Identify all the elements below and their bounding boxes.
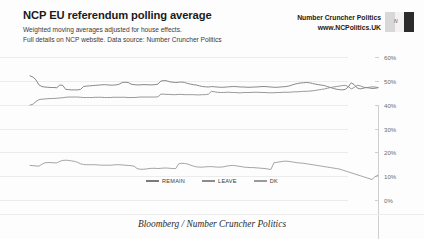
chart-area: 0%10%20%30%40%50%60% Sep 15Oct 15Nov 15D… (0, 48, 424, 213)
legend-label: REMAIN (162, 178, 185, 184)
chart-header: NCP EU referendum polling average Weight… (0, 0, 424, 48)
brand-block: Number Cruncher Politics www.NCPolitics.… (297, 13, 381, 33)
legend-item-leave[interactable]: LEAVE (202, 178, 237, 184)
subtitle-line-2: Full details on NCP website. Data source… (23, 36, 222, 43)
series-lines (0, 48, 424, 213)
legend-swatch-icon (202, 180, 215, 181)
series-line-dk (30, 160, 378, 179)
subtitle-line-1: Weighted moving averages adjusted for ho… (23, 26, 182, 33)
footer-divider (0, 214, 424, 215)
series-line-remain (30, 76, 378, 90)
legend-swatch-icon (254, 180, 267, 181)
brand-url: www.NCPolitics.UK (297, 23, 381, 33)
chart-legend: REMAINLEAVEDK (0, 178, 424, 184)
legend-label: DK (270, 178, 278, 184)
legend-swatch-icon (146, 180, 159, 181)
page-title: NCP EU referendum polling average (23, 9, 212, 21)
footer-credit: Bloomberg / Number Cruncher Politics (0, 219, 424, 229)
logo-letter: N (394, 18, 398, 24)
brand-name: Number Cruncher Politics (297, 13, 381, 23)
chart-page: NCP EU referendum polling average Weight… (0, 0, 424, 239)
legend-label: LEAVE (218, 178, 237, 184)
ncp-logo-icon: N (385, 12, 414, 32)
legend-item-dk[interactable]: DK (254, 178, 278, 184)
legend-item-remain[interactable]: REMAIN (146, 178, 185, 184)
